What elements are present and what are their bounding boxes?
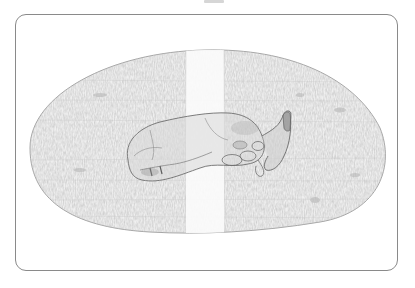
specimen-illustration <box>0 0 415 288</box>
